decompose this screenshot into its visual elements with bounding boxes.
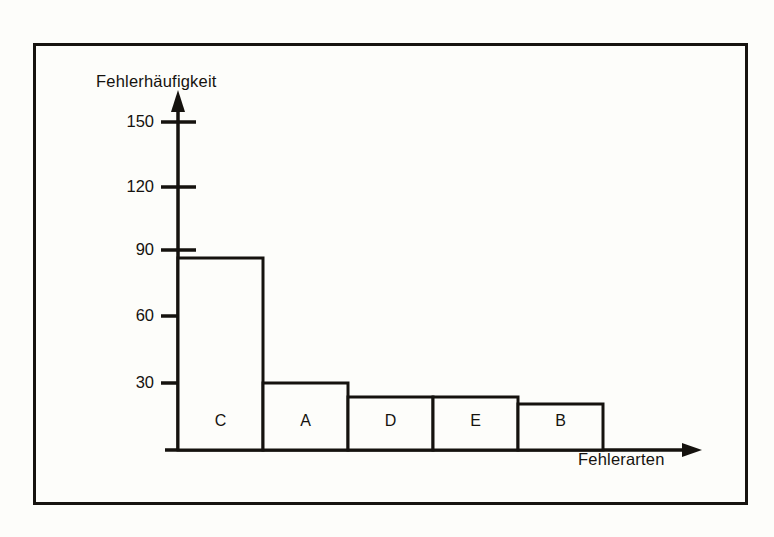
bar-label-e: E [433,412,518,430]
chart-plot-area: Fehlerhäufigkeit Fehlerarten 150 120 90 … [0,0,774,537]
bar-label-c: C [178,412,263,430]
bar-label-d: D [348,412,433,430]
y-axis-title: Fehlerhäufigkeit [96,72,217,91]
figure-root: Fehlerhäufigkeit Fehlerarten 150 120 90 … [0,0,774,537]
bar-label-b: B [518,412,603,430]
y-tick-label-90: 90 [108,240,154,259]
y-tick-label-60: 60 [108,306,154,325]
x-axis-title: Fehlerarten [578,450,665,469]
bar-label-a: A [263,412,348,430]
y-tick-label-150: 150 [108,112,154,131]
y-tick-label-30: 30 [108,373,154,392]
y-tick-label-120: 120 [108,177,154,196]
